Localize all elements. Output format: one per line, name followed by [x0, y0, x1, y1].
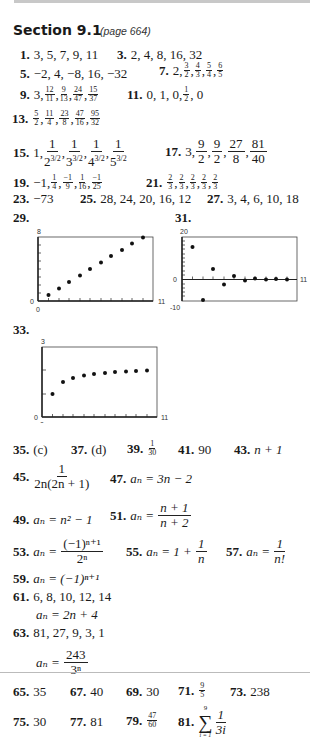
answer-27: 27.3, 4, 6, 10, 18 — [207, 191, 299, 207]
answer-71: 71.95 — [178, 682, 206, 699]
answer-79: 79.4760 — [126, 712, 158, 729]
svg-text:-10: -10 — [170, 304, 180, 311]
answer-61: 61.6, 8, 10, 12, 14 — [13, 589, 111, 605]
page-divider — [0, 672, 310, 673]
answer-39: 39.130 — [127, 440, 157, 457]
svg-text:11: 11 — [161, 414, 168, 421]
answer-65: 65.35 — [13, 684, 46, 700]
answer-25: 25.28, 24, 20, 16, 12 — [80, 191, 191, 207]
answer-43: 43.n + 1 — [234, 442, 283, 458]
answer-23: 23.−73 — [13, 191, 54, 207]
answer-53: 53.aₙ = (−1)ⁿ⁺¹2ⁿ — [13, 537, 104, 566]
answer-37: 37.(d) — [71, 442, 106, 458]
answer-1: 1.3, 5, 7, 9, 11 — [20, 47, 98, 63]
chart-29: 8 0011 — [28, 228, 168, 313]
answer-13: 13. 52, 114, 238, 4716, 9532 — [12, 110, 101, 127]
svg-text:0: 0 — [30, 298, 34, 305]
answer-31-label: 31. — [175, 210, 195, 226]
summation-symbol: 9 ∑ i = 1 — [198, 704, 212, 740]
section-page-ref: (page 664) — [100, 25, 151, 37]
svg-text:3: 3 — [41, 338, 45, 345]
answer-17: 17.3, 92, 92, 278, 8140 — [165, 137, 268, 166]
chart-33: 3 0011 — [32, 338, 172, 423]
svg-text:11: 11 — [300, 276, 307, 283]
svg-text:8: 8 — [37, 228, 41, 235]
answer-7: 7.2, 32, 43, 54, 65 — [159, 62, 224, 79]
answer-41: 41.90 — [178, 442, 211, 458]
svg-text:20: 20 — [180, 228, 188, 235]
answer-59: 59.aₙ = (−1)ⁿ⁺¹ — [13, 571, 99, 587]
svg-text:11: 11 — [158, 298, 165, 305]
answer-69: 69.30 — [126, 684, 159, 700]
svg-text:0: 0 — [34, 414, 38, 421]
answer-75: 75.30 — [13, 714, 46, 730]
answer-5: 5.−2, 4, −8, 16, −32 — [20, 66, 127, 82]
svg-text:0: 0 — [36, 306, 40, 313]
answer-15: 15.1, 123/2, 133/2, 143/2, 153/2 — [13, 137, 128, 169]
answer-77: 77.81 — [70, 714, 103, 730]
answer-81: 81. 9 ∑ i = 1 13i — [178, 704, 227, 740]
answer-49: 49.aₙ = n² − 1 — [13, 512, 92, 528]
answer-29-label: 29. — [13, 210, 33, 226]
answer-3: 3.2, 4, 8, 16, 32 — [117, 47, 202, 63]
answer-35: 35.(c) — [13, 442, 48, 458]
answer-11: 11.0, 1, 0, 12, 0 — [127, 86, 203, 103]
answer-67: 67.40 — [70, 684, 103, 700]
answer-33-label: 33. — [13, 322, 33, 338]
answer-51: 51.aₙ = n + 1n + 2 — [110, 501, 192, 530]
answer-47: 47.aₙ = 3n − 2 — [110, 471, 192, 487]
chart-31: 20 011-10 — [170, 228, 310, 313]
svg-text:0: 0 — [173, 276, 177, 283]
section-title: Section 9.1 — [13, 22, 102, 38]
answer-57: 57.aₙ = 1n! — [226, 537, 286, 566]
answer-73: 73.238 — [230, 684, 270, 700]
answer-21: 21. 23, 23, 23, 23, 23 — [146, 174, 219, 191]
answer-63: 63.81, 27, 9, 3, 1 — [13, 625, 105, 641]
answer-45: 45.12n(2n + 1) — [13, 462, 90, 491]
answer-19: 19.−1, 14, −19, 116, −125 — [13, 174, 103, 191]
top-divider — [14, 0, 310, 3]
answer-9: 9.3, 1211, 913, 2447, 1537 — [20, 86, 99, 103]
answer-55: 55.aₙ = 1 + 1n — [126, 537, 208, 566]
answer-61-formula: aₙ = 2n + 4 — [36, 607, 98, 623]
svg-text:0: 0 — [40, 421, 44, 423]
